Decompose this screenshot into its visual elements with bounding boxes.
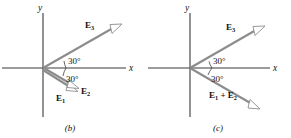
- y-axis-label: y: [37, 3, 43, 13]
- x-axis-label: x: [272, 63, 278, 73]
- panel-b-caption: (b): [65, 123, 76, 133]
- x-axis-label: x: [128, 63, 134, 73]
- y-axis-label: y: [184, 3, 190, 13]
- vector-e3-label: E3: [226, 22, 235, 33]
- vector-e3: [190, 26, 265, 68]
- vector-e3-arrowhead: [110, 24, 122, 34]
- panel-b-canvas: y x E3 E1 E2 30°: [0, 0, 145, 138]
- panel-b: y x E3 E1 E2 30°: [0, 0, 145, 138]
- angle-arc-upper: [64, 61, 66, 68]
- angle-label-lower: 30°: [211, 74, 224, 84]
- vector-e1-label: E1: [56, 93, 65, 104]
- vector-e3-label: E3: [85, 20, 94, 31]
- vector-e3: [43, 24, 122, 68]
- angle-label-upper: 30°: [68, 56, 81, 66]
- angle-arc-upper: [209, 62, 212, 69]
- panel-c-canvas: y x E3 E1 + E2 30° 30° (c): [146, 0, 291, 138]
- panel-c: y x E3 E1 + E2 30° 30° (c): [146, 0, 291, 138]
- angle-label-upper: 30°: [213, 56, 226, 66]
- vector-e3-arrowhead: [253, 26, 265, 36]
- vector-e1-plus-e2-label: E1 + E2: [209, 90, 237, 101]
- panel-c-caption: (c): [213, 123, 223, 133]
- angle-label-lower: 30°: [66, 74, 79, 84]
- vector-e1-plus-e2-arrowhead: [248, 100, 260, 110]
- figure-container: y x E3 E1 E2 30°: [0, 0, 291, 138]
- vector-e2-label: E2: [81, 86, 90, 97]
- vector-e1-plus-e2: [190, 68, 260, 109]
